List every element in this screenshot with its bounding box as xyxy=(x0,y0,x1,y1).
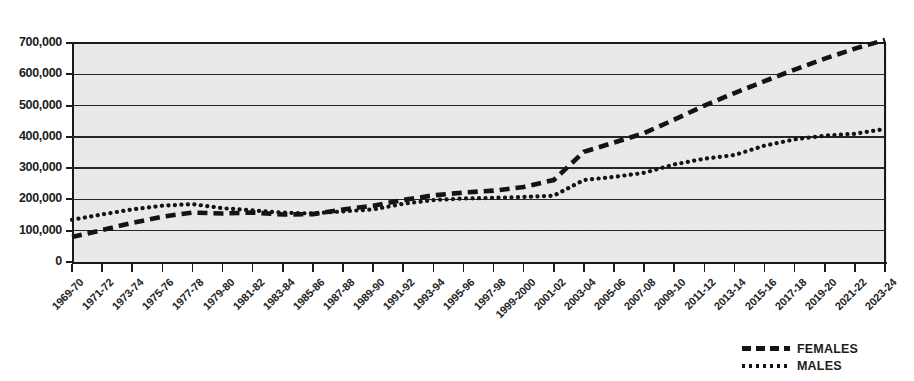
x-axis-tick xyxy=(372,264,374,272)
x-axis-label: 1975-76 xyxy=(140,276,176,312)
x-axis-label: 2015-16 xyxy=(742,276,778,312)
y-axis-label: 100,000 xyxy=(0,223,62,237)
chart-figure: 0100,000200,000300,000400,000500,000600,… xyxy=(0,0,914,381)
y-axis-tick xyxy=(66,167,73,169)
x-axis-label: 1985-86 xyxy=(290,276,326,312)
y-axis-label: 500,000 xyxy=(0,98,62,112)
x-axis-tick xyxy=(583,264,585,272)
chart-legend: FEMALESMALES xyxy=(742,340,902,374)
x-axis-label: 1979-80 xyxy=(200,276,236,312)
x-axis-label: 1977-78 xyxy=(170,276,206,312)
legend-swatch-dotted-icon xyxy=(742,363,790,369)
y-axis-label: 700,000 xyxy=(0,35,62,49)
x-axis-tick xyxy=(101,264,103,272)
x-axis-tick xyxy=(71,264,73,272)
x-axis-label: 2005-06 xyxy=(591,276,627,312)
x-axis-label: 1971-72 xyxy=(80,276,116,312)
x-axis-label: 2011-12 xyxy=(682,276,718,312)
x-axis-tick xyxy=(734,264,736,272)
x-axis-label: 1983-84 xyxy=(260,276,296,312)
gridline xyxy=(72,74,885,76)
x-axis-tick xyxy=(312,264,314,272)
y-axis-label: 600,000 xyxy=(0,66,62,80)
x-axis-tick xyxy=(342,264,344,272)
legend-swatch-dashed-icon xyxy=(742,346,790,352)
x-axis-label: 2001-02 xyxy=(531,276,567,312)
x-axis-tick xyxy=(824,264,826,272)
y-axis-label: 400,000 xyxy=(0,129,62,143)
plot-top-border xyxy=(72,42,886,44)
y-axis-tick xyxy=(66,105,73,107)
x-axis-tick xyxy=(764,264,766,272)
x-axis-tick xyxy=(131,264,133,272)
x-axis-label: 2003-04 xyxy=(561,276,597,312)
x-axis-tick xyxy=(222,264,224,272)
x-axis-tick xyxy=(794,264,796,272)
y-axis-tick xyxy=(66,198,73,200)
x-axis-tick xyxy=(463,264,465,272)
x-axis-label: 1993-94 xyxy=(411,276,447,312)
y-axis-tick xyxy=(66,136,73,138)
x-axis-tick xyxy=(854,264,856,272)
y-axis-label: 0 xyxy=(0,254,62,268)
x-axis-label: 2023-24 xyxy=(862,276,898,312)
gridline xyxy=(72,230,885,232)
legend-item[interactable]: FEMALES xyxy=(742,340,902,357)
legend-label: FEMALES xyxy=(797,342,858,356)
x-axis-label: 2009-10 xyxy=(652,276,688,312)
x-axis-tick xyxy=(493,264,495,272)
x-axis-tick xyxy=(433,264,435,272)
gridline xyxy=(72,167,885,169)
x-axis-tick xyxy=(192,264,194,272)
y-axis-tick xyxy=(66,73,73,75)
x-axis-tick xyxy=(673,264,675,272)
x-axis-tick xyxy=(252,264,254,272)
x-axis-label: 2019-20 xyxy=(802,276,838,312)
x-axis-label: 1995-96 xyxy=(441,276,477,312)
x-axis-label: 1987-88 xyxy=(320,276,356,312)
gridline xyxy=(72,105,885,107)
y-axis-tick xyxy=(66,261,73,263)
x-axis-label: 2007-08 xyxy=(622,276,658,312)
x-axis-tick xyxy=(884,264,886,272)
x-axis-tick xyxy=(523,264,525,272)
gridline xyxy=(72,136,885,138)
y-axis-label: 200,000 xyxy=(0,191,62,205)
x-axis-tick xyxy=(162,264,164,272)
gridline xyxy=(72,199,885,201)
x-axis-label: 1989-90 xyxy=(351,276,387,312)
legend-label: MALES xyxy=(797,359,842,373)
y-axis-label: 300,000 xyxy=(0,160,62,174)
x-axis-label: 1991-92 xyxy=(381,276,417,312)
x-axis-label: 2017-18 xyxy=(772,276,808,312)
x-axis-label: 1969-70 xyxy=(49,276,85,312)
y-axis-tick xyxy=(66,42,73,44)
x-axis-label: 1973-74 xyxy=(110,276,146,312)
x-axis-tick xyxy=(643,264,645,272)
x-axis-tick xyxy=(704,264,706,272)
x-axis-label: 2021-22 xyxy=(832,276,868,312)
y-axis-tick xyxy=(66,230,73,232)
legend-item[interactable]: MALES xyxy=(742,357,902,374)
x-axis-tick xyxy=(613,264,615,272)
x-axis-tick xyxy=(553,264,555,272)
x-axis-tick xyxy=(402,264,404,272)
x-axis-label: 2013-14 xyxy=(712,276,748,312)
x-axis-label: 1981-82 xyxy=(230,276,266,312)
x-axis-tick xyxy=(282,264,284,272)
